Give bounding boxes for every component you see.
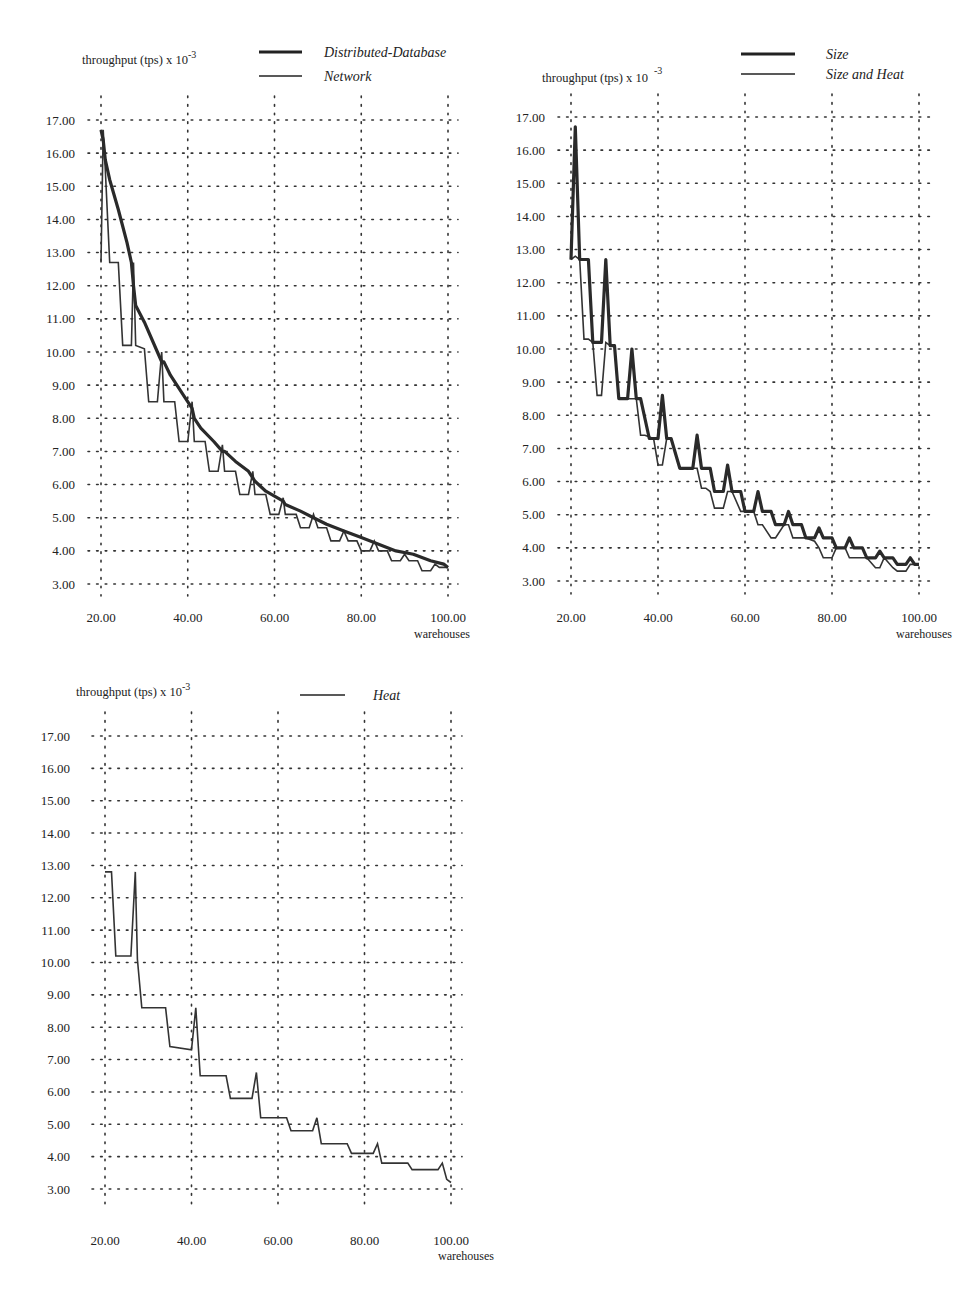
y-tick-label: 16.00 bbox=[41, 761, 70, 776]
x-tick-label: 20.00 bbox=[90, 1233, 119, 1248]
y-tick-label: 6.00 bbox=[47, 1084, 70, 1099]
y-axis-label: throughput (tps) x 10-3 bbox=[542, 65, 662, 85]
x-tick-label: 60.00 bbox=[730, 610, 759, 625]
y-tick-label: 11.00 bbox=[516, 308, 545, 323]
y-axis-label: throughput (tps) x 10-3 bbox=[76, 681, 190, 699]
x-tick-label: 40.00 bbox=[173, 610, 202, 625]
y-tick-label: 13.00 bbox=[41, 858, 70, 873]
x-axis-label: warehouses bbox=[438, 1249, 494, 1263]
y-tick-label: 14.00 bbox=[516, 209, 545, 224]
y-tick-label: 17.00 bbox=[46, 113, 75, 128]
y-tick-label: 12.00 bbox=[516, 275, 545, 290]
y-tick-label: 7.00 bbox=[47, 1052, 70, 1067]
y-tick-label: 7.00 bbox=[52, 444, 75, 459]
y-tick-label: 9.00 bbox=[522, 375, 545, 390]
x-tick-label: 20.00 bbox=[86, 610, 115, 625]
legend-label-network: Network bbox=[323, 69, 372, 84]
y-tick-label: 3.00 bbox=[47, 1182, 70, 1197]
y-tick-label: 7.00 bbox=[522, 441, 545, 456]
x-tick-labels: 20.0040.0060.0080.00100.00 bbox=[556, 610, 937, 625]
y-tick-label: 6.00 bbox=[52, 477, 75, 492]
x-tick-label: 80.00 bbox=[350, 1233, 379, 1248]
chart-distributed-vs-network: 17.0016.0015.0014.0013.0012.0011.0010.00… bbox=[0, 0, 490, 650]
y-tick-label: 6.00 bbox=[522, 474, 545, 489]
chart-size-vs-size-and-heat: 17.0016.0015.0014.0013.0012.0011.0010.00… bbox=[490, 0, 977, 650]
chart-canvas: 17.0016.0015.0014.0013.0012.0011.0010.00… bbox=[0, 650, 510, 1300]
y-tick-label: 4.00 bbox=[47, 1149, 70, 1164]
x-tick-label: 80.00 bbox=[817, 610, 846, 625]
y-tick-labels: 17.0016.0015.0014.0013.0012.0011.0010.00… bbox=[41, 729, 70, 1197]
y-tick-label: 13.00 bbox=[516, 242, 545, 257]
y-tick-label: 8.00 bbox=[522, 408, 545, 423]
chart-canvas: 17.0016.0015.0014.0013.0012.0011.0010.00… bbox=[490, 0, 977, 650]
x-tick-label: 20.00 bbox=[556, 610, 585, 625]
y-tick-label: 14.00 bbox=[46, 212, 75, 227]
x-axis-label: warehouses bbox=[414, 627, 470, 641]
y-tick-label: 16.00 bbox=[46, 146, 75, 161]
x-tick-label: 80.00 bbox=[347, 610, 376, 625]
y-tick-label: 9.00 bbox=[52, 378, 75, 393]
y-tick-label: 5.00 bbox=[522, 507, 545, 522]
x-tick-labels: 20.0040.0060.0080.00100.00 bbox=[86, 610, 466, 625]
y-tick-label: 15.00 bbox=[46, 179, 75, 194]
y-tick-labels: 17.0016.0015.0014.0013.0012.0011.0010.00… bbox=[46, 113, 75, 592]
y-tick-label: 17.00 bbox=[516, 110, 545, 125]
y-tick-label: 13.00 bbox=[46, 245, 75, 260]
x-tick-label: 40.00 bbox=[177, 1233, 206, 1248]
y-tick-label: 14.00 bbox=[41, 826, 70, 841]
y-tick-labels: 17.0016.0015.0014.0013.0012.0011.0010.00… bbox=[516, 110, 545, 589]
series-lines bbox=[101, 130, 448, 571]
grid bbox=[92, 712, 462, 1205]
y-tick-label: 9.00 bbox=[47, 987, 70, 1002]
y-tick-label: 8.00 bbox=[47, 1020, 70, 1035]
x-tick-label: 40.00 bbox=[643, 610, 672, 625]
y-tick-label: 15.00 bbox=[516, 176, 545, 191]
series-line-network bbox=[101, 130, 448, 571]
y-tick-label: 8.00 bbox=[52, 411, 75, 426]
legend: Distributed-Database Network bbox=[259, 45, 446, 84]
y-tick-label: 3.00 bbox=[522, 574, 545, 589]
y-tick-label: 5.00 bbox=[52, 510, 75, 525]
y-tick-label: 4.00 bbox=[52, 543, 75, 558]
legend-label-size: Size bbox=[826, 47, 849, 62]
y-tick-label: 11.00 bbox=[46, 311, 75, 326]
y-tick-label: 10.00 bbox=[516, 342, 545, 357]
grid bbox=[558, 94, 930, 594]
x-tick-label: 100.00 bbox=[901, 610, 937, 625]
x-axis-label: warehouses bbox=[896, 627, 952, 641]
legend: Heat bbox=[300, 688, 401, 703]
x-tick-label: 100.00 bbox=[430, 610, 466, 625]
x-tick-label: 60.00 bbox=[263, 1233, 292, 1248]
y-tick-label: 17.00 bbox=[41, 729, 70, 744]
x-tick-label: 100.00 bbox=[433, 1233, 469, 1248]
y-tick-label: 5.00 bbox=[47, 1117, 70, 1132]
y-tick-label: 12.00 bbox=[46, 278, 75, 293]
y-tick-label: 10.00 bbox=[41, 955, 70, 970]
y-tick-label: 10.00 bbox=[46, 345, 75, 360]
y-tick-label: 11.00 bbox=[41, 923, 70, 938]
x-tick-label: 60.00 bbox=[260, 610, 289, 625]
legend: Size Size and Heat bbox=[741, 47, 905, 82]
chart-heat: 17.0016.0015.0014.0013.0012.0011.0010.00… bbox=[0, 650, 510, 1300]
grid bbox=[88, 96, 458, 596]
chart-canvas: 17.0016.0015.0014.0013.0012.0011.0010.00… bbox=[0, 0, 490, 650]
y-axis-label: throughput (tps) x 10-3 bbox=[82, 49, 196, 67]
y-tick-label: 3.00 bbox=[52, 577, 75, 592]
y-tick-label: 4.00 bbox=[522, 540, 545, 555]
y-tick-label: 16.00 bbox=[516, 143, 545, 158]
legend-label-size-and-heat: Size and Heat bbox=[826, 67, 905, 82]
legend-label-heat: Heat bbox=[372, 688, 401, 703]
y-tick-label: 15.00 bbox=[41, 793, 70, 808]
legend-label-distributed-database: Distributed-Database bbox=[323, 45, 446, 60]
y-tick-label: 12.00 bbox=[41, 890, 70, 905]
x-tick-labels: 20.0040.0060.0080.00100.00 bbox=[90, 1233, 469, 1248]
